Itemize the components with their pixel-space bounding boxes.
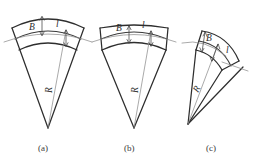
diagram-svg: B l R (a) bbox=[0, 0, 265, 158]
panel-b-label-R: R bbox=[130, 87, 140, 94]
panel-a-label-l: l bbox=[56, 19, 59, 29]
panel-b: B l R (b) bbox=[92, 20, 176, 153]
panel-b-label-B: B bbox=[116, 23, 122, 33]
panel-b-label-l: l bbox=[142, 20, 145, 30]
panel-a-outer-arc bbox=[12, 19, 84, 28]
figure-container: B l R (a) bbox=[0, 0, 265, 158]
panel-a-label-R: R bbox=[44, 87, 54, 94]
panel-b-middle-arc bbox=[101, 32, 167, 39]
panel-c-chord-extension bbox=[188, 67, 243, 124]
panel-b-inner-arc bbox=[102, 43, 166, 51]
panel-c-label-R: R bbox=[190, 84, 202, 95]
panel-a-inner-arc bbox=[19, 43, 77, 50]
panel-a: B l R (a) bbox=[4, 16, 92, 153]
panel-b-radius-line bbox=[134, 31, 151, 128]
panel-c: B l R (c) bbox=[182, 31, 248, 153]
panel-a-caption: (a) bbox=[38, 143, 48, 153]
panel-a-middle-arc bbox=[15, 31, 81, 39]
panel-b-outer-chord bbox=[100, 25, 168, 28]
panel-b-caption: (b) bbox=[124, 143, 135, 153]
panel-a-label-B: B bbox=[29, 22, 35, 32]
panel-a-radius-line bbox=[48, 30, 66, 128]
panel-c-label-B: B bbox=[206, 33, 212, 43]
panel-c-caption: (c) bbox=[206, 143, 216, 153]
panel-b-reference-curve bbox=[92, 35, 176, 43]
panel-c-label-l: l bbox=[226, 45, 229, 55]
